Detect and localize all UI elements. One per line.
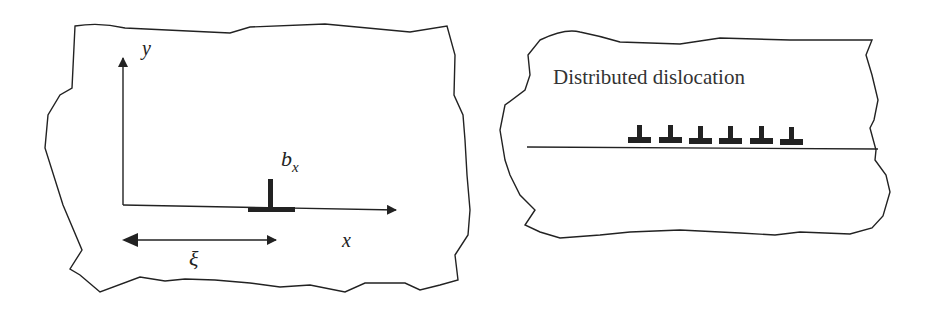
slip-plane-line xyxy=(527,147,878,149)
edge-dislocation-icon xyxy=(780,127,803,145)
edge-dislocation-icon xyxy=(659,125,682,143)
edge-dislocation-icon xyxy=(248,179,295,212)
burgers-vector-label: bx xyxy=(281,146,299,175)
y-axis-label: y xyxy=(140,37,151,60)
right-panel-title: Distributed dislocation xyxy=(553,65,745,89)
edge-dislocation-icon xyxy=(750,126,773,144)
edge-dislocation-icon xyxy=(719,126,742,144)
right-body-outline xyxy=(500,31,890,238)
right-panel: Distributed dislocation xyxy=(500,31,890,238)
left-body-outline xyxy=(45,24,470,292)
edge-dislocation-icon xyxy=(689,126,712,144)
x-axis-label: x xyxy=(341,229,351,251)
left-panel: y x bx ξ xyxy=(45,24,470,292)
distance-arrow-left-head xyxy=(122,233,138,247)
edge-dislocation-icon xyxy=(628,125,651,143)
diagram-canvas: y x bx ξ Distributed dislocation xyxy=(0,0,935,314)
dislocation-array xyxy=(628,125,803,145)
distance-label: ξ xyxy=(189,246,199,271)
